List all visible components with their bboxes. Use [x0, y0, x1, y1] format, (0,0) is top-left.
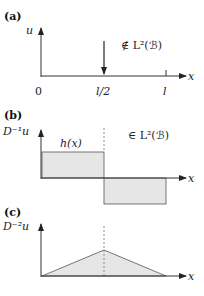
panel-a-y-label: u: [26, 24, 33, 37]
panel-c-y-label: D⁻²u: [2, 220, 29, 233]
negative-step-region: [104, 178, 166, 204]
panel-b-x-label: x: [188, 172, 195, 185]
panel-c-label: (c): [4, 206, 21, 219]
panel-b: (b) D⁻¹u x h(x) ∈ L²(ℬ): [2, 109, 195, 204]
tick-label-l-half: l/2: [96, 85, 110, 98]
positive-step-region: [42, 152, 104, 178]
in-l2-annotation: ∈ L²(ℬ): [128, 129, 169, 142]
tick-label-0: 0: [35, 85, 42, 98]
panel-b-y-label: D⁻¹u: [2, 125, 29, 138]
tick-label-l: l: [163, 85, 167, 98]
panel-a: (a) u x 0 l/2 l ∉ L²(ℬ): [4, 10, 195, 98]
h-x-label: h(x): [60, 137, 82, 150]
panel-c-x-label: x: [188, 270, 195, 283]
diagram-canvas: (a) u x 0 l/2 l ∉ L²(ℬ) (b) D⁻¹u x h(x) …: [0, 0, 204, 296]
panel-a-label: (a): [4, 10, 22, 23]
panel-a-x-label: x: [188, 70, 195, 83]
not-in-l2-annotation: ∉ L²(ℬ): [121, 39, 162, 52]
panel-b-label: (b): [4, 109, 22, 122]
panel-c: (c) D⁻²u x: [2, 206, 195, 283]
